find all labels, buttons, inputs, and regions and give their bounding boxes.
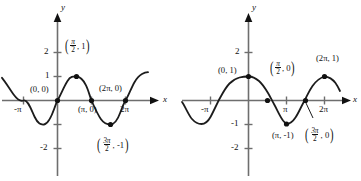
right-paren-glyph: ) xyxy=(292,62,296,74)
point-max xyxy=(322,74,327,79)
fraction: π 2 xyxy=(275,60,281,76)
y-tick-label-1: 1 xyxy=(45,71,50,80)
fraction: π 2 xyxy=(70,38,76,54)
right-paren-glyph: ) xyxy=(125,139,129,151)
point-label-zero-two-pi: (2π, 0) xyxy=(99,84,122,93)
y-axis xyxy=(245,13,253,176)
left-paren-glyph: ( xyxy=(270,62,274,74)
point-label-min: ( 3π 2 , -1 ) xyxy=(96,137,130,153)
point-origin xyxy=(55,98,60,103)
right-paren-glyph: ) xyxy=(87,40,91,52)
trig-graphs-figure: x y 2 1 -2 -π 2π (0, 0) ( π 2 , 1 ) (π, … xyxy=(0,0,361,181)
sine-graph-panel: x y 2 1 -2 -π 2π (0, 0) ( π 2 , 1 ) (π, … xyxy=(0,0,180,181)
point-label-zero-three-half-pi: ( 3π 2 , 0 ) xyxy=(304,127,335,143)
point-label-max: (2π, 1) xyxy=(316,54,339,63)
y-tick-label-2: 2 xyxy=(235,47,240,56)
point-zero-two-pi xyxy=(123,98,128,103)
point-label-zero-pi: (π, 0) xyxy=(78,105,97,114)
x-tick-label-two-pi: 2π xyxy=(319,105,328,114)
x-axis-label: x xyxy=(353,95,357,104)
y-axis-label: y xyxy=(252,3,256,12)
point-label-zero-half-pi: ( π 2 , 0 ) xyxy=(269,60,296,76)
y-tick-label-neg2: -2 xyxy=(231,143,239,152)
point-zero-pi xyxy=(89,98,94,103)
x-tick-label-neg-pi: -π xyxy=(201,105,209,114)
leader-line xyxy=(306,102,314,118)
sine-graph-svg xyxy=(0,0,180,181)
cosine-graph-panel: x y 2 -1 -2 -π π 2π (0, 1) ( π 2 , 0 ) (… xyxy=(180,0,360,181)
x-tick-label-pi: π xyxy=(283,105,288,114)
left-paren-glyph: ( xyxy=(305,129,309,141)
x-tick-label-two-pi: 2π xyxy=(120,105,129,114)
point-label-y-intercept: (0, 1) xyxy=(218,66,237,75)
y-tick-label-neg2: -2 xyxy=(40,143,48,152)
x-axis-label: x xyxy=(163,95,167,104)
point-max xyxy=(74,74,79,79)
fraction: 3π 2 xyxy=(102,137,111,153)
point-label-min: (π, -1) xyxy=(272,131,294,140)
left-paren-glyph: ( xyxy=(97,139,101,151)
y-tick-label-2: 2 xyxy=(44,47,49,56)
point-zero-half-pi xyxy=(265,98,270,103)
left-paren-glyph: ( xyxy=(65,40,69,52)
point-y-intercept xyxy=(246,74,251,79)
y-axis-label: y xyxy=(61,3,65,12)
x-tick-label-neg-pi: -π xyxy=(14,105,22,114)
cosine-graph-svg xyxy=(180,0,361,181)
point-label-origin: (0, 0) xyxy=(30,85,49,94)
y-tick-label-neg1: -1 xyxy=(231,119,239,128)
point-min xyxy=(284,121,289,126)
point-label-max: ( π 2 , 1 ) xyxy=(64,38,91,54)
point-zero-three-half-pi xyxy=(303,98,308,103)
point-min xyxy=(108,122,113,127)
fraction: 3π 2 xyxy=(310,127,319,143)
right-paren-glyph: ) xyxy=(330,129,334,141)
